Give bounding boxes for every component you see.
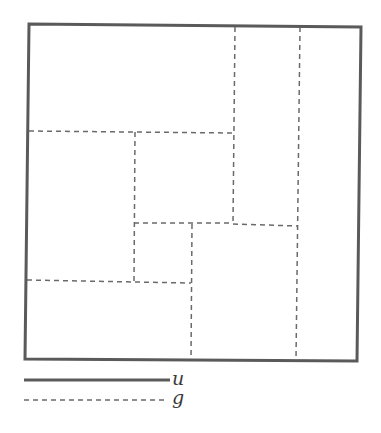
partition-segment-v-lower-mid	[191, 224, 192, 360]
partition-segment-h-upper	[29, 131, 233, 133]
partition-segment-v-right	[296, 27, 300, 360]
partition-segment-h-lower	[27, 280, 191, 283]
legend-label-g: g	[172, 388, 184, 407]
partition-segment-v-upper-mid	[233, 27, 235, 223]
outer-boundary-u	[25, 24, 361, 361]
partition-segment-h-middle-right	[233, 224, 298, 226]
partition-segment-v-center-left	[134, 132, 135, 281]
partition-lines-g	[27, 27, 300, 360]
partition-diagram	[0, 0, 381, 433]
